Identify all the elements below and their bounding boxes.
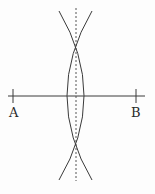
point-label-b: B — [131, 106, 141, 119]
point-label-a: A — [9, 106, 18, 119]
diagram-canvas: A B — [0, 0, 155, 194]
construction-drawing — [0, 0, 155, 194]
